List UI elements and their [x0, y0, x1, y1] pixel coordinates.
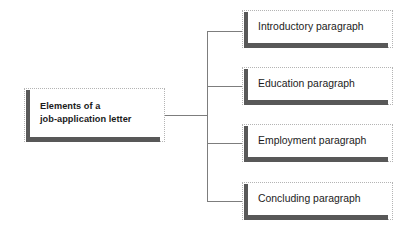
node-education-paragraph-label: Education paragraph: [258, 67, 383, 100]
node-accent-bar-left: [244, 126, 248, 161]
connector-branch-introductory: [207, 31, 243, 32]
node-root-elements[interactable]: Elements of a job-application letter: [24, 88, 165, 142]
node-accent-bar-left: [244, 184, 248, 219]
node-education-paragraph[interactable]: Education paragraph: [242, 67, 393, 105]
node-accent-bar-bottom: [244, 157, 388, 162]
node-employment-paragraph-label: Employment paragraph: [258, 124, 383, 157]
connector-vertical-trunk: [207, 31, 208, 202]
node-concluding-paragraph[interactable]: Concluding paragraph: [242, 182, 393, 220]
node-accent-bar-bottom: [244, 215, 388, 220]
node-introductory-paragraph-label: Introductory paragraph: [258, 10, 383, 43]
diagram-canvas: Elements of a job-application letter Int…: [0, 0, 409, 229]
connector-branch-education: [207, 86, 243, 87]
node-concluding-paragraph-label: Concluding paragraph: [258, 182, 383, 215]
connector-root-stem: [165, 115, 208, 116]
node-accent-bar-left: [244, 12, 248, 47]
node-accent-bar-left: [244, 69, 248, 104]
node-accent-bar-left: [26, 90, 30, 141]
connector-branch-concluding: [207, 201, 243, 202]
node-accent-bar-bottom: [244, 100, 388, 105]
connector-branch-employment: [207, 143, 243, 144]
node-introductory-paragraph[interactable]: Introductory paragraph: [242, 10, 393, 48]
node-accent-bar-bottom: [244, 43, 388, 48]
node-accent-bar-bottom: [26, 137, 160, 142]
node-employment-paragraph[interactable]: Employment paragraph: [242, 124, 393, 162]
node-root-label: Elements of a job-application letter: [40, 88, 155, 137]
